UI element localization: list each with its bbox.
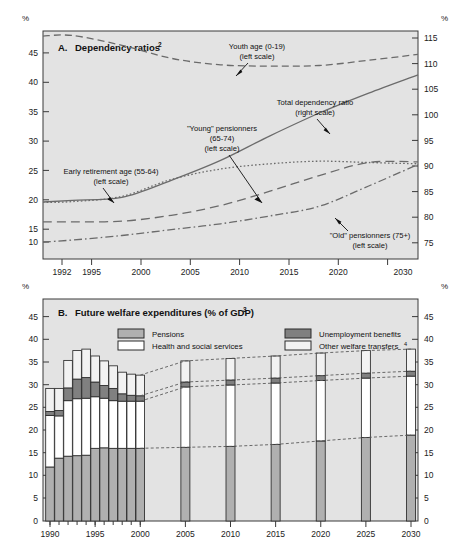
bar-segment	[361, 373, 370, 378]
bar-segment	[361, 438, 370, 521]
panel-a-x-axis: 1992 1995 2000 2005 2010 2015 2020 2030	[53, 259, 413, 277]
panel-b-xtick-1995: 1995	[86, 529, 105, 539]
bar-segment	[73, 399, 82, 456]
bar-segment	[181, 387, 190, 447]
panel-b-ytick-35: 35	[29, 357, 39, 367]
annotation-youth-age-line1: Youth age (0-19)	[229, 42, 286, 51]
panel-b-xtick-1990: 1990	[41, 529, 60, 539]
panel-a-ytick-10: 10	[29, 237, 39, 247]
bar-segment	[46, 467, 55, 521]
bar-segment	[46, 411, 55, 415]
panel-a-xtick-2000: 2000	[132, 267, 151, 277]
panel-a-y2tick-100: 100	[424, 110, 438, 120]
bar-segment	[181, 447, 190, 521]
bar-segment	[316, 353, 325, 376]
bar-segment	[271, 444, 280, 521]
bar-segment	[82, 378, 91, 399]
bar-segment	[226, 358, 235, 380]
panel-b-ytick-0: 0	[33, 516, 38, 526]
panel-b-left-unit: %	[22, 282, 29, 291]
panel-a-y2tick-95: 95	[424, 136, 434, 146]
panel-b-xtick-2030: 2030	[402, 529, 421, 539]
annotation-youth-age-line2: (left scale)	[239, 52, 274, 61]
panel-b-y2tick-5: 5	[424, 493, 429, 503]
panel-b-ytick-15: 15	[29, 448, 39, 458]
bar-segment	[82, 398, 91, 455]
bar-segment	[82, 349, 91, 377]
panel-b-xtick-2025: 2025	[356, 529, 375, 539]
bar-segment	[127, 395, 136, 401]
panel-b-xtick-2000: 2000	[131, 529, 150, 539]
bar-segment	[127, 448, 136, 521]
bar-segment	[100, 398, 109, 448]
annotation-young-line1: "Young" pensionners	[187, 124, 257, 133]
panel-a-xtick-2020: 2020	[329, 267, 348, 277]
panel-a-label: A.	[58, 42, 68, 53]
bar-segment	[46, 415, 55, 467]
panel-a-ytick-45: 45	[29, 48, 39, 58]
bar-segment	[109, 366, 118, 389]
annotation-total-line1: Total dependency ratio	[277, 98, 353, 107]
panel-b-ytick-20: 20	[29, 425, 39, 435]
bar-segment	[55, 416, 64, 458]
panel-a-xtick-1992: 1992	[53, 267, 72, 277]
panel-b-y2tick-45: 45	[424, 312, 434, 322]
legend-label-pensions: Pensions	[152, 330, 184, 339]
panel-b-y2tick-30: 30	[424, 380, 434, 390]
bar-segment	[91, 448, 100, 521]
bar-segment	[109, 401, 118, 449]
panel-a-title: Dependency ratios	[75, 42, 160, 53]
bar-segment	[100, 448, 109, 521]
panel-a-xtick-2005: 2005	[181, 267, 200, 277]
bar-segment	[226, 385, 235, 446]
panel-b-y2tick-20: 20	[424, 425, 434, 435]
bar-segment	[64, 456, 73, 521]
bar-segment	[55, 458, 64, 521]
bar-segment	[118, 372, 127, 394]
panel-a-title-sup: 2	[158, 41, 162, 48]
annotation-young-line2: (65-74)	[210, 134, 235, 143]
bar-segment	[64, 360, 73, 388]
bar-segment	[136, 401, 145, 448]
legend-swatch-other	[285, 341, 311, 350]
panel-b-title: Future welfare expenditures (% of GDP)	[75, 307, 254, 318]
panel-a-xtick-2010: 2010	[230, 267, 249, 277]
bar-segment	[136, 396, 145, 401]
bar-segment	[226, 380, 235, 385]
bar-segment	[64, 388, 73, 401]
legend-label-health: Health and social services	[152, 342, 243, 351]
panel-a-ytick-40: 40	[29, 77, 39, 87]
panel-b-ytick-10: 10	[29, 470, 39, 480]
bar-segment	[136, 448, 145, 521]
figure-svg: % % 45 40 35 30 25 20 15 10 115 110 105	[0, 0, 467, 547]
annotation-old-line1: "Old" pensionners (75+)	[330, 231, 411, 240]
legend-label-other: Other welfare transfers	[319, 342, 398, 351]
panel-b-y2tick-15: 15	[424, 448, 434, 458]
bar-segment	[91, 382, 100, 397]
bar-segment	[407, 435, 416, 521]
panel-a-ytick-20: 20	[29, 195, 39, 205]
bar-segment	[55, 411, 64, 416]
bar-segment	[73, 456, 82, 521]
panel-b-right-unit: %	[441, 282, 448, 291]
panel-b-ytick-30: 30	[29, 380, 39, 390]
bar-segment	[100, 385, 109, 398]
panel-b-label: B.	[58, 307, 68, 318]
panel-a-ytick-35: 35	[29, 107, 39, 117]
panel-b-ytick-5: 5	[33, 493, 38, 503]
panel-a-y2tick-110: 110	[424, 59, 438, 69]
bar-segment	[82, 455, 91, 521]
panel-b-x-axis: 199019952000200520102015202020252030	[41, 521, 421, 539]
panel-b-title-sup: 3	[243, 306, 247, 313]
bar-segment	[407, 349, 416, 371]
panel-b-ytick-45: 45	[29, 312, 39, 322]
panel-a-y2tick-105: 105	[424, 84, 438, 94]
panel-b-xtick-2005: 2005	[176, 529, 195, 539]
annotation-young-line3: (left scale)	[204, 144, 239, 153]
bar-segment	[407, 371, 416, 376]
bar-segment	[226, 446, 235, 521]
panel-a-xtick-2015: 2015	[280, 267, 299, 277]
panel-a-xtick-2030: 2030	[394, 267, 413, 277]
panel-b: % % 45 40 35 30 25 20 15 10 5	[22, 282, 448, 539]
panel-a-y2tick-80: 80	[424, 212, 434, 222]
